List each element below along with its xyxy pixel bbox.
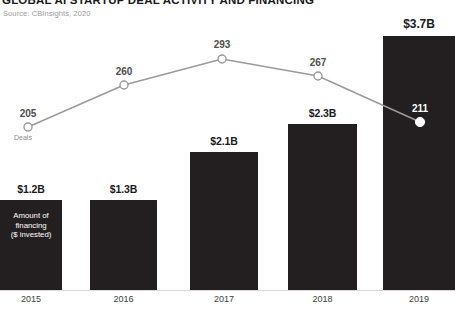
deals-line [28,59,420,127]
deals-point-2015 [24,123,32,131]
deals-label-2016: 260 [104,66,144,77]
x-tick-2018: 2018 [288,294,357,304]
plot-area: Amount of financing ($ invested) $1.2B $… [0,0,455,310]
x-tick-2016: 2016 [90,294,157,304]
deals-point-2018 [314,72,322,80]
deals-label-2018: 267 [298,57,338,68]
x-tick-2019: 2019 [383,294,455,304]
x-tick-2015: 2015 [0,294,62,304]
deals-label-2019: 211 [400,103,440,114]
deals-label-2017: 293 [202,39,242,50]
deals-point-2019 [415,117,424,126]
deals-axis-note: Deals [14,134,32,141]
deals-label-2015: 205 [8,108,48,119]
deals-point-2017 [218,55,226,63]
chart-container: GLOBAL AI STARTUP DEAL ACTIVITY AND FINA… [0,0,455,310]
deals-point-2016 [120,81,128,89]
x-axis-line [0,290,455,291]
x-tick-2017: 2017 [190,294,258,304]
